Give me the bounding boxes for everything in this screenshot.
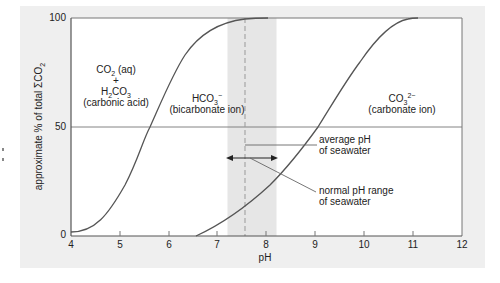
- x-tick-7: 7: [207, 239, 227, 250]
- x-tick-4: 4: [61, 239, 81, 250]
- x-tick-6: 6: [159, 239, 179, 250]
- x-tick-10: 10: [354, 239, 374, 250]
- region-label-carbonate-ion: CO32− (carbonate ion): [362, 93, 442, 115]
- y-tick-50: 50: [42, 121, 66, 132]
- annotation-average-ph: average pH of seawater: [319, 134, 371, 156]
- annotation-normal-ph-range: normal pH range of seawater: [319, 185, 393, 207]
- y-axis-label-subscript: 2: [39, 63, 46, 67]
- x-tick-11: 11: [403, 239, 423, 250]
- x-tick-12: 12: [452, 239, 472, 250]
- region-label-carbonic-acid: CO2 (aq) + H2CO3 (carbonic acid): [76, 64, 156, 108]
- y-tick-100: 100: [42, 12, 66, 23]
- x-tick-8: 8: [256, 239, 276, 250]
- x-axis-label: pH: [250, 252, 280, 263]
- x-tick-5: 5: [110, 239, 130, 250]
- region-label-bicarbonate-ion: HCO3− (bicarbonate ion): [167, 93, 247, 115]
- x-tick-9: 9: [305, 239, 325, 250]
